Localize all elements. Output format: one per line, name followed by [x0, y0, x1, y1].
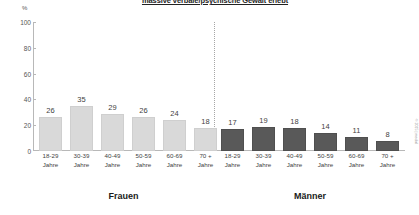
chart-title: massive verbale/psychische Gewalt erlebt — [110, 0, 320, 5]
bar-männer-70-+-Jahre[interactable] — [376, 141, 399, 151]
bar-männer-18-29-Jahre[interactable] — [221, 129, 244, 151]
bar-männer-40-49-Jahre[interactable] — [283, 128, 306, 151]
category-label: 18-29Jahre — [35, 152, 66, 169]
group-label-maenner: Männer — [215, 191, 405, 201]
bar-frauen-50-59-Jahre[interactable] — [132, 117, 155, 151]
y-axis-unit: % — [22, 5, 27, 11]
bar-frauen-40-49-Jahre[interactable] — [101, 114, 124, 151]
credit-text: © 2015 | medial — [414, 119, 418, 144]
bar-value-label: 18 — [279, 117, 310, 126]
bar-slot — [128, 22, 159, 151]
bar-slot — [159, 22, 190, 151]
bar-slot — [97, 22, 128, 151]
bar-value-label: 24 — [159, 109, 190, 118]
y-tick-40: 40 — [5, 96, 31, 103]
category-label: 50-59Jahre — [128, 152, 159, 169]
bar-value-label: 14 — [310, 122, 341, 131]
bar-frauen-70-+-Jahre[interactable] — [194, 128, 217, 151]
y-tick-0: 0 — [5, 148, 31, 155]
bar-slot — [310, 22, 341, 151]
bar-männer-60-69-Jahre[interactable] — [345, 137, 368, 151]
category-label: 60-69Jahre — [159, 152, 190, 169]
bar-value-label: 35 — [66, 95, 97, 104]
category-label: 70 +Jahre — [372, 152, 403, 169]
bar-value-label: 29 — [97, 103, 128, 112]
bar-frauen-60-69-Jahre[interactable] — [163, 120, 186, 151]
bar-slot — [248, 22, 279, 151]
bar-slot — [279, 22, 310, 151]
bar-value-label: 17 — [217, 118, 248, 127]
bar-value-label: 26 — [35, 106, 66, 115]
category-label: 30-39Jahre — [248, 152, 279, 169]
bar-männer-50-59-Jahre[interactable] — [314, 133, 337, 151]
y-axis-tick-labels: 100 80 60 40 20 0 — [0, 22, 31, 151]
bar-value-label: 19 — [248, 116, 279, 125]
category-label: 40-49Jahre — [279, 152, 310, 169]
bar-slot — [35, 22, 66, 151]
bar-value-label: 11 — [341, 126, 372, 135]
bar-slot — [217, 22, 248, 151]
category-label: 40-49Jahre — [97, 152, 128, 169]
y-tick-80: 80 — [5, 44, 31, 51]
x-axis-category-labels: 18-29Jahre30-39Jahre40-49Jahre50-59Jahre… — [33, 152, 405, 176]
y-tick-20: 20 — [5, 122, 31, 129]
chart-container: massive verbale/psychische Gewalt erlebt… — [0, 0, 419, 215]
category-label: 18-29Jahre — [217, 152, 248, 169]
bar-frauen-30-39-Jahre[interactable] — [70, 106, 93, 151]
category-label: 30-39Jahre — [66, 152, 97, 169]
bar-männer-30-39-Jahre[interactable] — [252, 127, 275, 152]
bar-frauen-18-29-Jahre[interactable] — [39, 117, 62, 151]
bar-slot — [66, 22, 97, 151]
bar-value-label: 26 — [128, 106, 159, 115]
category-label: 60-69Jahre — [341, 152, 372, 169]
bar-value-label: 8 — [372, 130, 403, 139]
category-label: 50-59Jahre — [310, 152, 341, 169]
bars-layer: 26352926241817191814118 — [33, 22, 405, 151]
y-tick-60: 60 — [5, 70, 31, 77]
y-tick-100: 100 — [5, 19, 31, 26]
group-label-frauen: Frauen — [33, 191, 214, 201]
